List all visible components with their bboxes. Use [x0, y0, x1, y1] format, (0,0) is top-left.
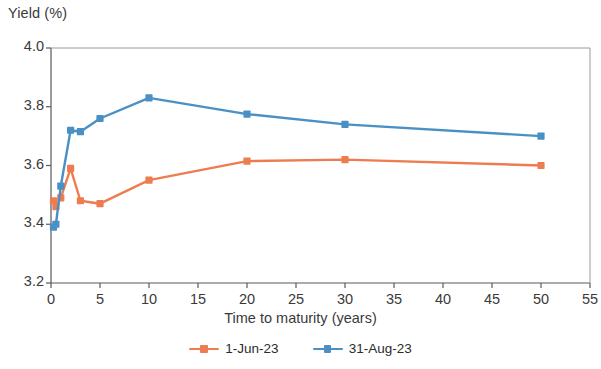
legend-label: 31-Aug-23 — [349, 341, 412, 356]
x-tick-label: 0 — [31, 291, 71, 307]
x-axis-title: Time to maturity (years) — [0, 310, 601, 326]
x-tick-label: 35 — [374, 291, 414, 307]
data-point-marker — [77, 197, 84, 204]
y-axis-title: Yield (%) — [8, 5, 67, 21]
x-tick-label: 25 — [276, 291, 316, 307]
data-point-marker — [243, 110, 250, 117]
data-point-marker — [67, 127, 74, 134]
data-point-marker — [77, 128, 84, 135]
axis-ticks — [46, 48, 590, 288]
x-tick-label: 40 — [423, 291, 463, 307]
data-point-marker — [341, 156, 348, 163]
y-tick-label: 3.4 — [0, 214, 44, 230]
y-tick-label: 3.2 — [0, 273, 44, 289]
data-point-marker — [341, 121, 348, 128]
legend-item[interactable]: 1-Jun-23 — [189, 341, 278, 356]
x-tick-label: 45 — [472, 291, 512, 307]
y-tick-label: 3.6 — [0, 156, 44, 172]
x-tick-label: 30 — [325, 291, 365, 307]
data-series-group — [50, 94, 545, 230]
data-point-marker — [537, 162, 544, 169]
series-line-0 — [53, 160, 541, 207]
data-point-marker — [67, 165, 74, 172]
y-tick-label: 3.8 — [0, 97, 44, 113]
legend-label: 1-Jun-23 — [225, 341, 278, 356]
x-tick-label: 50 — [521, 291, 561, 307]
data-point-marker — [96, 200, 103, 207]
y-tick-label: 4.0 — [0, 38, 44, 54]
data-point-marker — [537, 133, 544, 140]
data-point-marker — [96, 115, 103, 122]
x-tick-label: 5 — [80, 291, 120, 307]
chart-legend: 1-Jun-2331-Aug-23 — [0, 341, 601, 356]
data-point-marker — [145, 94, 152, 101]
x-tick-label: 10 — [129, 291, 169, 307]
data-point-marker — [57, 182, 64, 189]
legend-swatch-icon — [313, 344, 343, 354]
legend-swatch-icon — [189, 344, 219, 354]
data-point-marker — [52, 221, 59, 228]
yield-curve-chart: Yield (%) 3.23.43.63.84.0 05101520253035… — [0, 0, 601, 369]
data-point-marker — [145, 177, 152, 184]
legend-item[interactable]: 31-Aug-23 — [313, 341, 412, 356]
x-tick-label: 20 — [227, 291, 267, 307]
x-tick-label: 15 — [178, 291, 218, 307]
x-tick-label: 55 — [570, 291, 601, 307]
data-point-marker — [243, 157, 250, 164]
